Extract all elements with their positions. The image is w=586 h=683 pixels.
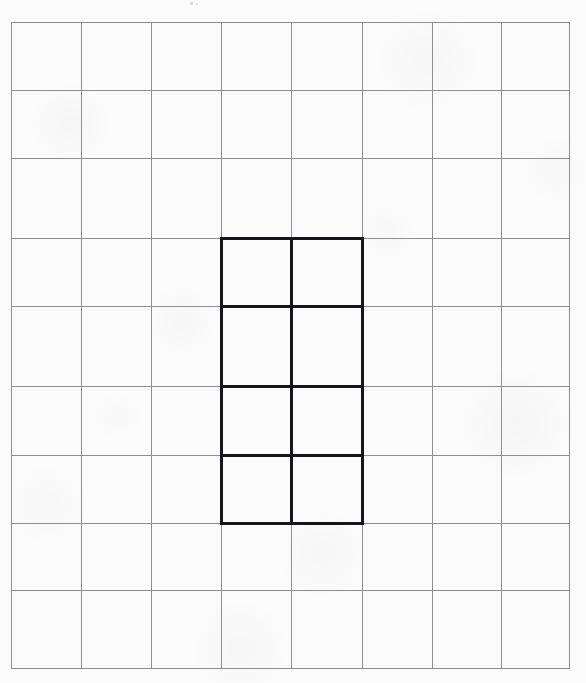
shape-line-vertical-1 (290, 237, 293, 525)
shape-line-horizontal-2 (220, 385, 364, 388)
shape-line-vertical-0 (220, 237, 223, 525)
worksheet-page (0, 0, 586, 683)
scan-speck-1 (196, 3, 198, 5)
shape-line-vertical-2 (361, 237, 364, 525)
shape-line-horizontal-0 (220, 237, 364, 240)
highlighted-rectangle[interactable] (0, 0, 586, 683)
shape-line-horizontal-3 (220, 454, 364, 457)
shape-line-horizontal-4 (220, 522, 364, 525)
scan-speck-0 (190, 2, 193, 5)
shape-line-horizontal-1 (220, 305, 364, 308)
